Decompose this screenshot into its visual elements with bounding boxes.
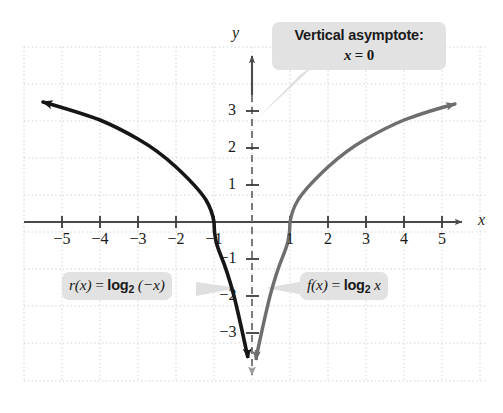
- asymptote-equation-value: = 0: [351, 47, 374, 63]
- y-axis-label: y: [232, 24, 239, 42]
- asymptote-callout-title: Vertical asymptote:: [294, 27, 423, 43]
- callout-pointers: [196, 62, 318, 296]
- left-function-body: (−x): [134, 276, 165, 293]
- x-tick-label-1: 1: [282, 230, 298, 248]
- asymptote-callout-equation: x = 0: [276, 46, 442, 64]
- x-tick-label-2: 2: [320, 230, 336, 248]
- curve-r-log2negx: [43, 102, 247, 356]
- x-tick-label-neg4: −4: [90, 230, 110, 248]
- left-function-arg: (x): [75, 276, 92, 293]
- x-tick-label-5: 5: [434, 230, 450, 248]
- x-tick-label-3: 3: [358, 230, 374, 248]
- left-function-equals: =: [91, 276, 107, 293]
- x-tick-label-neg2: −2: [166, 230, 186, 248]
- y-tick-label-neg2: −2: [216, 286, 240, 304]
- left-function-log-word: log: [107, 277, 128, 293]
- right-function-log-base: 2: [365, 283, 371, 295]
- asymptote-pointer-tail: [258, 62, 318, 118]
- x-tick-label-4: 4: [396, 230, 412, 248]
- right-function-body: x: [370, 276, 380, 293]
- y-tick-label-2: 2: [224, 138, 240, 156]
- y-tick-label-1: 1: [224, 175, 240, 193]
- y-tick-label-3: 3: [224, 101, 240, 119]
- grid: [24, 47, 487, 381]
- right-function-log-word: log: [344, 277, 365, 293]
- left-function-callout: r(x) = log2 (−x): [62, 272, 172, 300]
- y-tick-label-neg3: −3: [216, 323, 240, 341]
- x-tick-label-neg3: −3: [128, 230, 148, 248]
- right-function-arg: (x): [311, 276, 328, 293]
- x-axis-label: x: [478, 211, 485, 229]
- right-function-equals: =: [328, 276, 344, 293]
- vertical-asymptote-callout: Vertical asymptote: x = 0: [272, 22, 446, 70]
- x-tick-label-neg5: −5: [52, 230, 72, 248]
- x-tick-label-neg1: −1: [204, 230, 224, 248]
- y-tick-label-neg1: −1: [216, 249, 240, 267]
- right-function-callout: f(x) = log2 x: [300, 272, 388, 300]
- left-function-log-base: 2: [129, 283, 135, 295]
